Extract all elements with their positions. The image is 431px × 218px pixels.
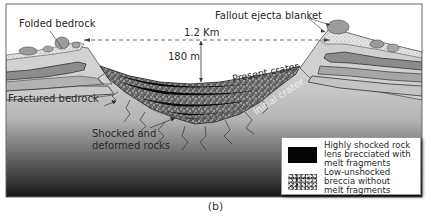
legend-swatch-black xyxy=(288,147,317,163)
figure-caption: (b) xyxy=(0,200,431,213)
legend-item-melt-lens: Highly shocked rock lens brecciated with… xyxy=(288,141,411,169)
boulder xyxy=(55,37,69,49)
boulder xyxy=(387,44,399,52)
boulder xyxy=(19,47,37,55)
label-shocked-rocks-line1: Shocked and xyxy=(92,128,156,139)
boulder xyxy=(370,40,384,48)
label-fractured-bedrock: Fractured bedrock xyxy=(8,93,99,104)
label-depth: 180 m xyxy=(168,51,200,62)
label-shocked-rocks-line2: deformed rocks xyxy=(92,140,170,151)
label-folded-bedrock: Folded bedrock xyxy=(19,18,96,29)
boulder xyxy=(72,42,80,48)
boulder xyxy=(43,46,53,52)
legend-swatch-speckled xyxy=(288,174,317,190)
label-fallout-ejecta-blanket: Fallout ejecta blanket xyxy=(215,10,322,21)
legend-text: Low-unshocked breccia without melt fragm… xyxy=(324,168,390,196)
legend-text: Highly shocked rock lens brecciated with… xyxy=(324,141,411,169)
legend-item-breccia: Low-unshocked breccia without melt fragm… xyxy=(288,168,390,196)
boulder xyxy=(327,20,349,34)
label-diameter: 1.2 Km xyxy=(184,27,219,38)
legend: Highly shocked rock lens brecciated with… xyxy=(281,137,421,195)
